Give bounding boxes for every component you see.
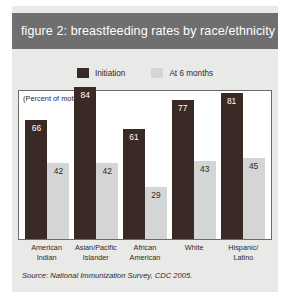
legend-label-initiation: Initiation [95, 69, 126, 78]
bar: 81 [221, 93, 243, 239]
bar-value-label: 77 [172, 104, 194, 112]
category-label: AmericanIndian [24, 243, 70, 267]
bar: 42 [47, 163, 69, 239]
bar: 29 [145, 187, 167, 239]
figure-title-band: figure 2: breastfeeding rates by race/et… [12, 13, 278, 49]
category-label: AfricanAmerican [122, 243, 168, 267]
bar: 61 [123, 129, 145, 239]
bar-group: 6642 [25, 120, 69, 239]
bar: 77 [172, 100, 194, 239]
figure-title: figure 2: breastfeeding rates by race/et… [12, 24, 275, 38]
legend-item-at-6-months: At 6 months [151, 68, 213, 78]
bar: 42 [96, 163, 118, 239]
legend-item-initiation: Initiation [77, 68, 126, 78]
bar-value-label: 42 [47, 167, 69, 175]
legend-swatch-initiation [77, 68, 89, 78]
bar-value-label: 29 [145, 191, 167, 199]
bar-value-label: 81 [221, 97, 243, 105]
bars-area: 66428442612977438145 [19, 91, 271, 239]
bar-value-label: 43 [194, 165, 216, 173]
source-note: Source: National Immunization Survey, CD… [22, 271, 192, 280]
bar-value-label: 66 [25, 124, 47, 132]
bar-value-label: 61 [123, 133, 145, 141]
legend-label-at-6-months: At 6 months [169, 69, 213, 78]
plot-frame: (Percent of mothers) 6642844261297743814… [18, 90, 272, 240]
bar-group: 8442 [74, 87, 118, 239]
category-label: Asian/PacificIslander [73, 243, 119, 267]
bar: 84 [74, 87, 96, 239]
bar: 66 [25, 120, 47, 239]
category-labels: AmericanIndianAsian/PacificIslanderAfric… [18, 243, 272, 267]
figure-root: figure 2: breastfeeding rates by race/et… [0, 0, 290, 298]
bar-value-label: 45 [243, 162, 265, 170]
bar-group: 7743 [172, 100, 216, 239]
bar: 43 [194, 161, 216, 239]
chart-legend: Initiation At 6 months [12, 62, 278, 84]
legend-swatch-at-6-months [151, 68, 163, 78]
bar-value-label: 42 [96, 167, 118, 175]
bar-value-label: 84 [74, 91, 96, 99]
bar-group: 8145 [221, 93, 265, 239]
bar-group: 6129 [123, 129, 167, 239]
category-label: White [171, 243, 217, 267]
category-label: Hispanic/Latino [220, 243, 266, 267]
bar: 45 [243, 158, 265, 239]
